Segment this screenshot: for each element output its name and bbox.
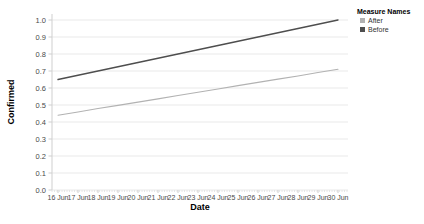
x-tick-label: 17 Jun bbox=[67, 194, 88, 201]
y-tick-label: 0.4 bbox=[36, 118, 46, 127]
legend-item-label: Before bbox=[368, 26, 389, 33]
legend-item-after[interactable]: After bbox=[360, 17, 410, 24]
legend-item-before[interactable]: Before bbox=[360, 26, 410, 33]
legend-swatch-before bbox=[360, 27, 365, 32]
legend: Measure Names AfterBefore bbox=[357, 8, 410, 33]
line-chart: 0.00.10.20.30.40.50.60.70.80.91.016 Jun1… bbox=[0, 0, 424, 224]
y-tick-label: 0.8 bbox=[36, 50, 46, 59]
y-tick-label: 0.5 bbox=[36, 101, 46, 110]
legend-items: AfterBefore bbox=[357, 17, 410, 33]
y-axis-title: Confirmed bbox=[6, 80, 16, 125]
x-tick-label: 29 Jun bbox=[307, 194, 328, 201]
x-tick-label: 26 Jun bbox=[247, 194, 268, 201]
y-tick-label: 0.7 bbox=[36, 67, 46, 76]
x-tick-label: 20 Jun bbox=[127, 194, 148, 201]
plot-area: 0.00.10.20.30.40.50.60.70.80.91.016 Jun1… bbox=[0, 0, 424, 224]
y-tick-label: 0.3 bbox=[36, 135, 46, 144]
x-tick-label: 25 Jun bbox=[227, 194, 248, 201]
y-tick-label: 0.6 bbox=[36, 84, 46, 93]
x-tick-label: 27 Jun bbox=[267, 194, 288, 201]
x-axis-title: Date bbox=[190, 202, 210, 212]
legend-item-label: After bbox=[368, 17, 383, 24]
y-tick-label: 0.9 bbox=[36, 33, 46, 42]
series-line-after[interactable] bbox=[58, 69, 338, 115]
legend-swatch-after bbox=[360, 18, 365, 23]
y-tick-label: 1.0 bbox=[36, 16, 46, 25]
y-tick-label: 0.2 bbox=[36, 152, 46, 161]
x-tick-label: 23 Jun bbox=[187, 194, 208, 201]
legend-title: Measure Names bbox=[357, 8, 410, 15]
x-tick-label: 19 Jun bbox=[107, 194, 128, 201]
x-tick-label: 24 Jun bbox=[207, 194, 228, 201]
y-tick-label: 0.0 bbox=[36, 186, 46, 195]
x-tick-label: 16 Jun bbox=[47, 194, 68, 201]
x-tick-label: 28 Jun bbox=[287, 194, 308, 201]
x-tick-label: 22 Jun bbox=[167, 194, 188, 201]
x-tick-label: 18 Jun bbox=[87, 194, 108, 201]
x-tick-label: 21 Jun bbox=[147, 194, 168, 201]
x-tick-label: 30 Jun bbox=[327, 194, 348, 201]
y-tick-label: 0.1 bbox=[36, 169, 46, 178]
